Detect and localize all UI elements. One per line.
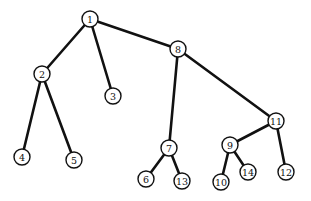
- edge-8-11: [178, 49, 276, 121]
- node-label: 8: [175, 44, 181, 55]
- edge-1-2: [42, 19, 90, 74]
- edge-1-8: [90, 19, 178, 49]
- node-label: 11: [270, 116, 282, 127]
- tree-node-1: 1: [82, 11, 98, 27]
- node-label: 7: [166, 143, 172, 154]
- tree-graph: 1234567891011121314: [0, 0, 311, 201]
- tree-node-7: 7: [161, 140, 177, 156]
- tree-node-5: 5: [66, 152, 82, 168]
- node-label: 6: [143, 174, 149, 185]
- edge-2-5: [42, 74, 74, 160]
- tree-node-13: 13: [174, 173, 190, 189]
- tree-node-3: 3: [105, 88, 121, 104]
- node-label: 10: [215, 177, 227, 188]
- tree-node-9: 9: [222, 137, 238, 153]
- tree-node-8: 8: [170, 41, 186, 57]
- node-label: 4: [19, 152, 25, 163]
- tree-node-4: 4: [14, 149, 30, 165]
- edges-layer: [22, 19, 286, 182]
- tree-node-10: 10: [213, 174, 229, 190]
- node-label: 2: [39, 69, 45, 80]
- nodes-layer: 1234567891011121314: [14, 11, 294, 190]
- node-label: 12: [280, 167, 292, 178]
- node-label: 13: [176, 176, 188, 187]
- tree-node-2: 2: [34, 66, 50, 82]
- tree-node-6: 6: [138, 171, 154, 187]
- tree-node-12: 12: [278, 164, 294, 180]
- node-label: 5: [71, 155, 77, 166]
- tree-node-14: 14: [240, 164, 256, 180]
- edge-8-7: [169, 49, 178, 148]
- node-label: 3: [110, 91, 116, 102]
- node-label: 14: [242, 167, 254, 178]
- tree-node-11: 11: [268, 113, 284, 129]
- edge-1-3: [90, 19, 113, 96]
- node-label: 9: [227, 140, 233, 151]
- node-label: 1: [87, 14, 93, 25]
- edge-2-4: [22, 74, 42, 157]
- tree-diagram: 1234567891011121314: [0, 0, 311, 201]
